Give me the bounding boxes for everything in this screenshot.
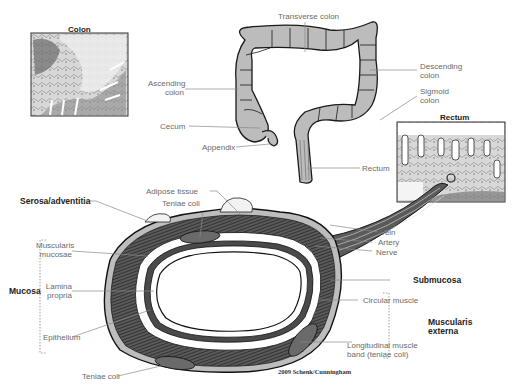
label-lp-line1: Lamina — [40, 282, 72, 291]
label-vein: Vein — [380, 228, 396, 237]
label-sigmoid-colon: Sigmoid colon — [420, 87, 449, 105]
label-cecum: Cecum — [160, 122, 185, 131]
colon-anatomy-diagram: Colon Rectum Transverse colon Ascending … — [0, 0, 515, 392]
group-label-mucosa: Mucosa — [9, 287, 41, 296]
label-longitudinal-muscle: Longitudinal muscle band (teniae coli) — [347, 341, 418, 359]
label-sigmoid-line2: colon — [420, 96, 449, 105]
label-muscularis-mucosae: Muscularis mucosae — [36, 241, 72, 259]
label-ascending-line1: Ascending — [148, 79, 184, 88]
label-serosa-adventitia: Serosa/adventitia — [20, 197, 90, 206]
colon-micrograph — [31, 33, 128, 116]
label-artery: Artery — [378, 238, 399, 247]
colon-micrograph-title: Colon — [68, 25, 91, 34]
label-circular-muscle: Circular muscle — [363, 296, 418, 305]
label-epithelium: Epithelium — [43, 333, 80, 342]
label-transverse-colon: Transverse colon — [278, 12, 339, 21]
label-ascending-line2: colon — [148, 88, 184, 97]
label-lamina-propria: Lamina propria — [40, 282, 72, 300]
label-descending-colon: Descending colon — [420, 62, 462, 80]
credit-text: 2009 Schenk/Cunningham — [278, 368, 351, 375]
rectum-micrograph-title: Rectum — [440, 113, 469, 122]
label-teniae-coli-bottom: Teniae coli — [82, 372, 120, 381]
label-nerve: Nerve — [376, 248, 397, 257]
label-me-line2: externa — [428, 327, 472, 336]
group-label-muscularis-externa: Muscularis externa — [428, 318, 472, 336]
label-appendix: Appendix — [202, 143, 235, 152]
label-lp-line2: propria — [40, 291, 72, 300]
label-descending-line2: colon — [420, 71, 462, 80]
label-mm-line1: Muscularis — [36, 241, 72, 250]
large-intestine-illustration — [236, 22, 378, 183]
label-lm-line1: Longitudinal muscle — [347, 341, 418, 350]
label-sigmoid-line1: Sigmoid — [420, 87, 449, 96]
label-rectum: Rectum — [362, 164, 390, 173]
label-lm-line2: band (teniae coli) — [347, 350, 418, 359]
label-submucosa: Submucosa — [413, 276, 461, 285]
label-descending-line1: Descending — [420, 62, 462, 71]
label-ascending-colon: Ascending colon — [148, 79, 184, 97]
label-adipose-tissue: Adipose tissue — [146, 187, 198, 196]
label-teniae-coli-top: Teniae coli — [162, 199, 200, 208]
rectum-micrograph — [397, 122, 505, 202]
label-mm-line2: mucosae — [36, 250, 72, 259]
